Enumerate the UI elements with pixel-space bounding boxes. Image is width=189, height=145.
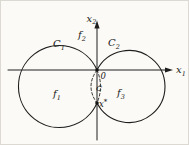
circle-c2-arc [97, 51, 165, 123]
x2-axis-label: x2 [87, 13, 97, 27]
set-c1-label: C1 [53, 38, 65, 52]
set-c2-label: C2 [108, 37, 120, 51]
circle-c1-arc [18, 45, 97, 127]
x-star-label: x* [99, 98, 108, 110]
origin-label: 0 [101, 71, 107, 81]
x1-axis-label: x1 [176, 64, 186, 78]
x1-axis-arrow-icon [165, 67, 173, 72]
region-f1-label: f1 [52, 88, 61, 102]
region-f3-label: f3 [116, 87, 125, 101]
set-c-tilde-label: C̃ [96, 84, 102, 93]
origin-point-dot [95, 68, 99, 72]
region-f2-label: f2 [77, 29, 86, 43]
intersecting-circles-diagram: x2 x1 C1 C2 C̃ f2 f1 f3 0 x* [1, 1, 189, 145]
figure-canvas: x2 x1 C1 C2 C̃ f2 f1 f3 0 x* [0, 0, 189, 145]
